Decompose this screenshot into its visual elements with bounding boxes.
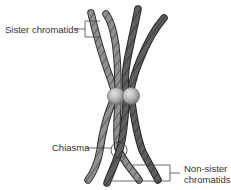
centromere-left	[108, 88, 125, 105]
non-sister-chromatids-label: Non-sister chromatids	[184, 163, 230, 185]
chiasma-label: Chiasma	[52, 142, 90, 153]
non-sister-chromatids-bracket	[112, 165, 180, 181]
sister-chromatid-left-lower	[88, 103, 112, 180]
non-sister-label-line2: chromatids	[184, 174, 230, 185]
homolog-chromatid-right-lower	[132, 103, 158, 180]
non-sister-label-line1: Non-sister	[184, 163, 230, 174]
sister-chromatids-label: Sister chromatids	[5, 24, 78, 35]
chromosome-diagram: Sister chromatids Chiasma Non-sister chr…	[0, 0, 231, 190]
centromere-right	[123, 88, 140, 105]
